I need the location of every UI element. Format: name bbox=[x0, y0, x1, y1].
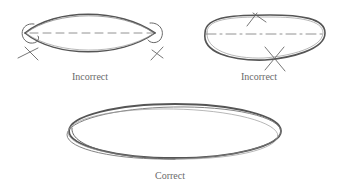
bottom-correct-ellipse bbox=[67, 104, 282, 161]
bottom-correct-label: Correct bbox=[155, 170, 185, 181]
right-incorrect-ellipse bbox=[205, 13, 325, 71]
left-incorrect-ellipse bbox=[18, 14, 163, 60]
right-incorrect-label: Incorrect bbox=[241, 71, 277, 82]
left-incorrect-label: Incorrect bbox=[72, 71, 108, 82]
ellipse-drawing-diagram bbox=[0, 0, 341, 187]
